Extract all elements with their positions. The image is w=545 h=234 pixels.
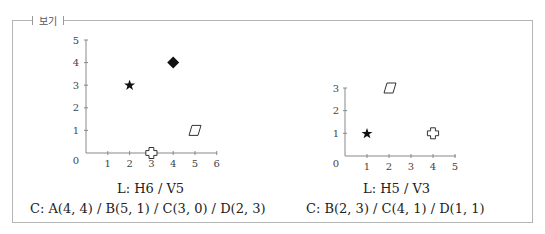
- left-ytick-4: 4: [73, 57, 79, 68]
- left-ytick-2: 2: [73, 102, 79, 113]
- left-caption-line1: L: H6 / V5: [117, 181, 184, 196]
- left-ytick-5: 5: [73, 35, 79, 46]
- left-ytick-3: 3: [73, 80, 79, 91]
- left-ytick-1: 1: [73, 125, 79, 136]
- left-xtick-2: 2: [126, 158, 132, 169]
- right-caption-line1: L: H5 / V3: [363, 181, 430, 196]
- star-icon: [362, 128, 373, 138]
- left-xtick-3: 3: [148, 158, 154, 169]
- right-xtick-3: 3: [408, 161, 414, 172]
- parallelogram-icon: [189, 125, 201, 135]
- charts-canvas: 1 2 3 4 5 1 2 3 4 5 6 0: [0, 0, 545, 234]
- left-caption-line2: C: A(4, 4) / B(5, 1) / C(3, 0) / D(2, 3): [30, 201, 266, 216]
- left-origin-label: 0: [73, 155, 79, 166]
- right-xtick-1: 1: [364, 161, 370, 172]
- right-origin-label: 0: [333, 158, 339, 169]
- diamond-icon: [167, 57, 179, 69]
- right-chart: 1 2 3 1 2 3 4 5 0: [333, 83, 458, 172]
- parallelogram-icon: [384, 83, 396, 93]
- left-xtick-6: 6: [214, 158, 220, 169]
- left-chart: 1 2 3 4 5 1 2 3 4 5 6 0: [73, 35, 220, 169]
- right-xtick-2: 2: [386, 161, 392, 172]
- right-ytick-3: 3: [333, 83, 339, 94]
- left-xtick-5: 5: [192, 158, 198, 169]
- left-x-ticks: 1 2 3 4 5 6: [105, 151, 220, 169]
- cross-icon: [146, 148, 157, 159]
- right-ytick-2: 2: [333, 105, 339, 116]
- cross-icon: [427, 128, 438, 139]
- star-icon: [124, 80, 135, 90]
- right-caption-line2: C: B(2, 3) / C(4, 1) / D(1, 1): [306, 201, 485, 216]
- right-ytick-1: 1: [333, 128, 339, 139]
- right-xtick-5: 5: [452, 161, 458, 172]
- left-xtick-4: 4: [170, 158, 176, 169]
- left-xtick-1: 1: [105, 158, 111, 169]
- right-x-ticks: 1 2 3 4 5: [364, 154, 458, 172]
- right-xtick-4: 4: [430, 161, 436, 172]
